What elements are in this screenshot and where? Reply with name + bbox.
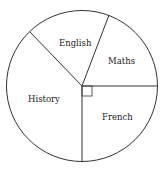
label-french: French: [102, 112, 133, 122]
label-english: English: [59, 38, 92, 48]
label-maths: Maths: [108, 56, 135, 66]
pie-chart: English Maths History French: [0, 0, 164, 169]
label-history: History: [28, 94, 60, 104]
